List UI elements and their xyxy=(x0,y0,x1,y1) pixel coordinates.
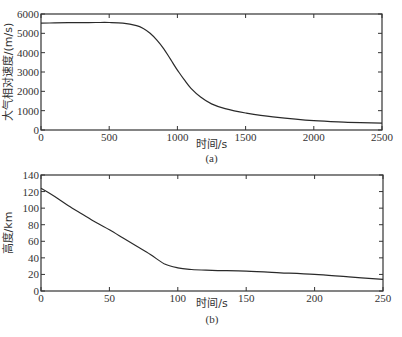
y-tick-label: 120 xyxy=(23,186,40,198)
x-tick-label: 150 xyxy=(238,292,255,304)
x-tick-label: 2500 xyxy=(371,131,394,143)
x-tick-label: 100 xyxy=(170,292,187,304)
x-axis-label: 时间/s xyxy=(196,297,228,310)
y-tick-label: 5000 xyxy=(17,27,40,39)
y-tick-label: 2000 xyxy=(17,85,40,97)
y-tick-label: 80 xyxy=(28,219,40,231)
data-line xyxy=(41,188,383,279)
x-tick-label: 1500 xyxy=(235,131,258,143)
axes-frame xyxy=(41,175,383,291)
x-axis-label: 时间/s xyxy=(196,138,228,151)
y-tick-label: 20 xyxy=(28,268,40,280)
x-tick-label: 50 xyxy=(104,292,116,304)
chart-a: 0500100015002000250001000200030004000500… xyxy=(1,8,394,165)
x-tick-label: 500 xyxy=(101,131,118,143)
x-tick-label: 200 xyxy=(306,292,323,304)
figure: 0500100015002000250001000200030004000500… xyxy=(0,0,402,337)
y-axis-label: 高度/km xyxy=(1,212,15,255)
x-tick-label: 0 xyxy=(38,292,44,304)
x-tick-label: 250 xyxy=(375,292,392,304)
y-tick-label: 6000 xyxy=(17,8,40,20)
y-tick-label: 40 xyxy=(28,252,40,264)
y-tick-label: 60 xyxy=(28,235,40,247)
x-tick-label: 1000 xyxy=(166,131,189,143)
y-tick-label: 1000 xyxy=(17,105,40,117)
subfigure-caption: (a) xyxy=(205,152,218,165)
y-tick-label: 100 xyxy=(23,202,40,214)
x-tick-label: 2000 xyxy=(303,131,326,143)
y-axis-label: 大气相对速度/(m/s) xyxy=(1,23,15,121)
axes-frame xyxy=(41,14,382,130)
y-tick-label: 4000 xyxy=(17,47,40,59)
y-tick-label: 0 xyxy=(34,124,40,136)
data-line xyxy=(41,22,382,123)
y-tick-label: 3000 xyxy=(17,66,40,78)
x-tick-label: 0 xyxy=(38,131,44,143)
y-tick-label: 0 xyxy=(34,285,40,297)
subfigure-caption: (b) xyxy=(206,313,219,326)
chart-b: 050100150200250020406080100120140时间/s高度/… xyxy=(1,169,392,326)
y-tick-label: 140 xyxy=(23,169,40,181)
